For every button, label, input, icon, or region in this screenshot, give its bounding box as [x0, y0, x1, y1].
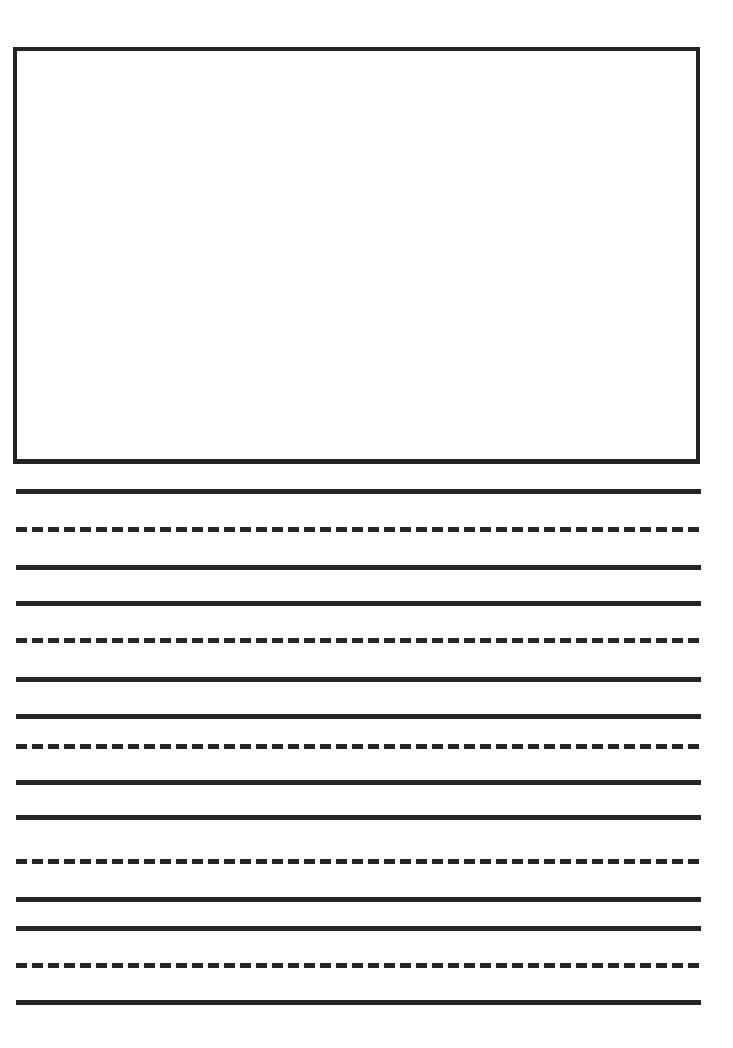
writing-line-solid [16, 601, 701, 606]
writing-line-solid [16, 897, 701, 902]
writing-line-solid [16, 714, 701, 719]
writing-line-dashed [16, 859, 701, 864]
writing-line-solid [16, 780, 701, 785]
writing-line-solid [16, 677, 701, 682]
writing-line-dashed [16, 744, 701, 749]
writing-line-solid [16, 926, 701, 931]
drawing-area[interactable] [17, 51, 696, 459]
drawing-box[interactable] [13, 47, 700, 464]
writing-line-dashed [16, 527, 701, 532]
worksheet-page [0, 0, 733, 1048]
writing-line-dashed [16, 638, 701, 643]
drawing-box-border-bottom [13, 459, 700, 464]
writing-line-solid [16, 565, 701, 570]
writing-line-solid [16, 815, 701, 820]
writing-line-solid [16, 489, 701, 494]
drawing-box-border-right [696, 47, 700, 464]
writing-line-dashed [16, 963, 701, 968]
writing-line-solid [16, 1000, 701, 1005]
